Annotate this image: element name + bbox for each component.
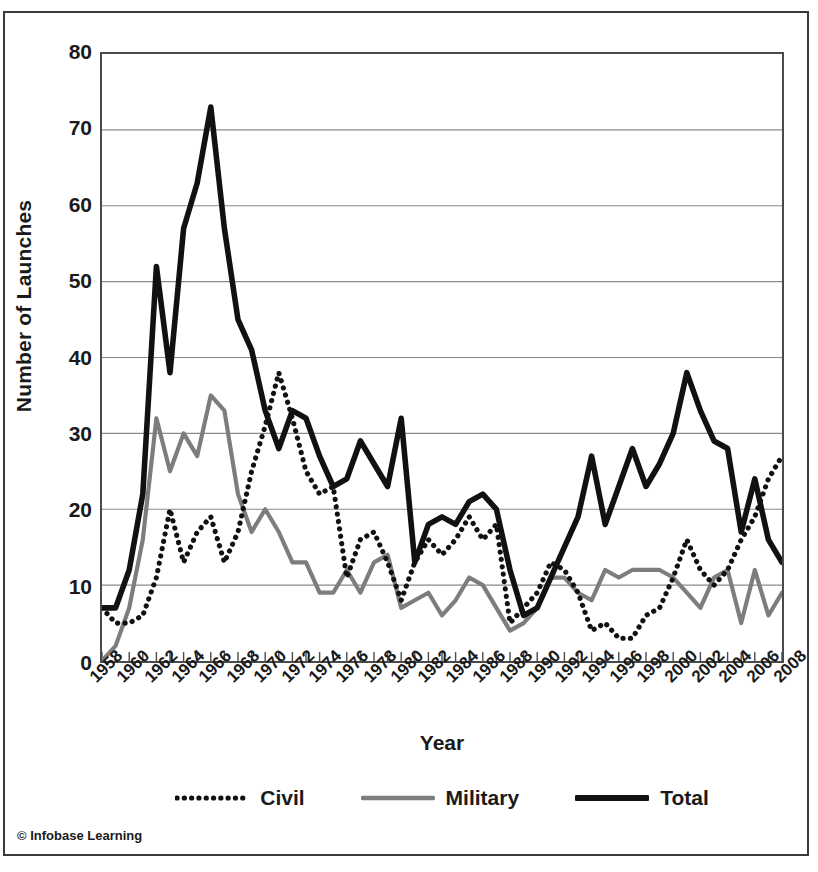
chart-figure: Number of Launches 01020304050607080 195… (0, 0, 818, 872)
y-axis-tick-labels: 01020304050607080 (44, 52, 92, 663)
y-tick-label-0: 0 (46, 651, 92, 675)
y-tick-label-10: 10 (46, 575, 92, 599)
y-tick-label-50: 50 (46, 269, 92, 293)
copyright-credit: © Infobase Learning (17, 828, 142, 843)
dotted-line-swatch (175, 791, 249, 805)
legend-label: Total (660, 786, 709, 810)
y-tick-label-30: 30 (46, 422, 92, 446)
black-line-swatch (575, 791, 649, 805)
plot-area (100, 52, 784, 663)
legend-item-military[interactable]: Military (361, 786, 520, 810)
y-tick-label-80: 80 (46, 40, 92, 64)
x-axis-title: Year (100, 731, 784, 755)
gray-line-swatch (361, 791, 435, 805)
series-line-military (102, 395, 782, 661)
y-tick-label-70: 70 (46, 116, 92, 140)
chart-legend: CivilMilitaryTotal (100, 778, 784, 818)
y-tick-label-60: 60 (46, 193, 92, 217)
series-line-total (102, 107, 782, 615)
legend-label: Civil (260, 786, 304, 810)
legend-label: Military (446, 786, 520, 810)
legend-item-civil[interactable]: Civil (175, 786, 304, 810)
y-tick-label-40: 40 (46, 346, 92, 370)
y-axis-title: Number of Launches (12, 26, 36, 586)
plot-svg (102, 54, 782, 661)
legend-item-total[interactable]: Total (575, 786, 709, 810)
y-tick-label-20: 20 (46, 498, 92, 522)
